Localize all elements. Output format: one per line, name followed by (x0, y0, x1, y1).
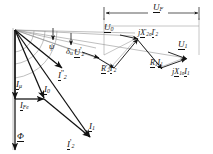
label-phi: Φ (17, 132, 24, 141)
construction-lines (13, 28, 186, 150)
label-i-2-doubleprime-mid: I''2 (58, 70, 67, 81)
label-u-0: U0 (104, 23, 113, 33)
ray-upper-thin (15, 30, 135, 33)
label-r2-i2: R'2I'2 (101, 64, 116, 73)
phasor-diagram-figure: UF U0 U'2 U1 jX'2σI'2 R'2I'2 R1I1 jX1σI1… (0, 0, 213, 154)
label-jx2s-i2: jX'2σI'2 (138, 28, 158, 37)
closure-r2-to-jx2 (112, 38, 137, 66)
label-jx1s-i1: jX1σI1 (172, 68, 190, 77)
label-psi: ψ (49, 42, 54, 51)
u-f-dimension-line (104, 7, 199, 20)
phasor-jx2p-i2p (114, 39, 138, 68)
label-r1-i1: R1I1 (150, 59, 163, 68)
label-u-1: U1 (178, 40, 187, 50)
label-i-mu: Iμ (16, 80, 22, 90)
label-i-2-prime-bottom: I'2 (67, 139, 74, 150)
ray-thin-b (15, 30, 96, 48)
label-i-0: I0 (44, 85, 50, 95)
label-u-2-prime: U'2 (74, 48, 84, 58)
label-i-1: I1 (89, 122, 95, 132)
label-u-f: UF (153, 3, 163, 13)
closure-r1-to-jx1 (161, 58, 184, 67)
label-delta-u: δu (66, 47, 73, 57)
label-i-fe: IFe (20, 101, 29, 111)
